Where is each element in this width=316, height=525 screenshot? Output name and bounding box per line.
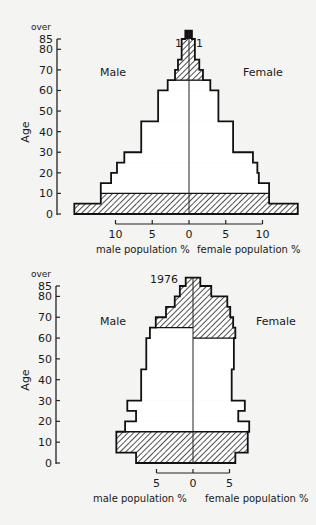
- y-tick-label: 20: [38, 415, 52, 428]
- chart-title: 1976: [150, 273, 178, 286]
- y-over-label: over: [31, 22, 51, 32]
- male-bar: [111, 173, 189, 183]
- y-tick-label: 30: [38, 395, 52, 408]
- female-bar: [189, 183, 269, 193]
- male-bar: [150, 328, 193, 338]
- female-bar: [189, 193, 269, 203]
- x-tick-label: 5: [226, 477, 233, 490]
- y-tick-label: 40: [39, 126, 53, 139]
- male-bar: [127, 401, 193, 411]
- x-tick-label: 5: [222, 228, 229, 241]
- y-over-label: over: [31, 269, 51, 279]
- male-bar: [175, 70, 189, 80]
- female-bar: [193, 369, 232, 400]
- x-axis: 1050510: [109, 220, 270, 241]
- male-label: Male: [100, 66, 126, 79]
- population-pyramid-figure: 1871 over Male Female Age 01020304050607…: [0, 0, 316, 525]
- male-bar: [182, 39, 189, 60]
- female-bar: [193, 328, 235, 338]
- female-bar: [193, 278, 200, 286]
- female-bar: [189, 204, 298, 214]
- female-bar: [193, 411, 238, 421]
- pyramid-1976: 1976 over Male Female Age 01020304050607…: [19, 269, 309, 504]
- female-bar: [193, 317, 233, 327]
- male-bar: [141, 121, 189, 152]
- male-bar: [168, 80, 189, 90]
- male-bar: [180, 286, 193, 296]
- y-tick-label: 40: [38, 374, 52, 387]
- female-bar: [189, 90, 218, 121]
- male-bar: [156, 317, 193, 327]
- male-bar: [158, 90, 189, 121]
- male-label: Male: [100, 315, 126, 328]
- female-bar: [189, 70, 203, 80]
- y-tick-label: 10: [39, 187, 53, 200]
- female-bar: [193, 401, 245, 411]
- y-tick-label: 70: [39, 64, 53, 77]
- y-tick-label: 85: [39, 33, 53, 46]
- y-tick-label: 10: [38, 436, 52, 449]
- male-bar: [166, 307, 193, 317]
- y-tick-label: 0: [46, 208, 53, 221]
- male-bar: [101, 183, 189, 193]
- x-tick-label: 10: [109, 228, 123, 241]
- y-tick-label: 30: [39, 146, 53, 159]
- y-tick-label: 60: [38, 332, 52, 345]
- y-tick-label: 85: [38, 280, 52, 293]
- x-label-female: female population %: [205, 493, 309, 504]
- female-bar: [193, 286, 211, 296]
- x-tick-label: 5: [149, 228, 156, 241]
- female-bar: [189, 173, 259, 183]
- male-bar: [186, 278, 193, 286]
- x-tick-label: 0: [186, 228, 193, 241]
- y-tick-label: 50: [39, 105, 53, 118]
- y-axis: 0102030405060708085: [39, 33, 61, 221]
- female-bar: [193, 338, 234, 369]
- x-tick-label: 5: [153, 477, 160, 490]
- male-bar: [141, 369, 193, 400]
- pyramid-1871: 1871 over Male Female Age 01020304050607…: [19, 22, 301, 255]
- female-bar: [193, 432, 248, 442]
- female-bar: [189, 80, 210, 90]
- female-label: Female: [256, 315, 296, 328]
- male-bar: [101, 193, 189, 203]
- y-tick-label: 70: [38, 311, 52, 324]
- male-bar: [117, 163, 189, 173]
- male-bar: [146, 338, 193, 369]
- female-bar: [189, 163, 257, 173]
- female-bar: [193, 307, 230, 317]
- x-axis: 505: [153, 469, 233, 490]
- female-bar: [189, 60, 199, 70]
- bars: [116, 278, 249, 463]
- male-bar: [124, 152, 189, 162]
- female-bar: [189, 152, 253, 162]
- male-bar: [125, 421, 193, 431]
- male-bar: [116, 442, 193, 452]
- y-tick-label: 20: [39, 167, 53, 180]
- bars: [74, 31, 297, 214]
- female-bar: [193, 442, 248, 452]
- female-bar: [193, 421, 249, 431]
- male-bar: [136, 411, 193, 421]
- male-bar: [175, 296, 193, 306]
- male-bar: [116, 432, 193, 442]
- y-tick-label: 0: [45, 457, 52, 470]
- x-label-male: male population %: [96, 244, 190, 255]
- y-tick-label: 50: [38, 353, 52, 366]
- y-tick-label: 60: [39, 84, 53, 97]
- female-bar: [193, 453, 235, 463]
- x-label-female: female population %: [197, 244, 301, 255]
- male-bar: [74, 204, 189, 214]
- y-axis: 0102030405060708085: [38, 280, 60, 470]
- female-bar: [193, 296, 227, 306]
- female-bar: [189, 121, 233, 152]
- male-bar: [136, 453, 193, 463]
- x-tick-label: 10: [256, 228, 270, 241]
- male-bar: [178, 60, 189, 70]
- x-tick-label: 0: [190, 477, 197, 490]
- female-label: Female: [243, 66, 283, 79]
- x-label-male: male population %: [93, 493, 187, 504]
- y-axis-label: Age: [19, 369, 32, 391]
- y-axis-label: Age: [19, 121, 32, 143]
